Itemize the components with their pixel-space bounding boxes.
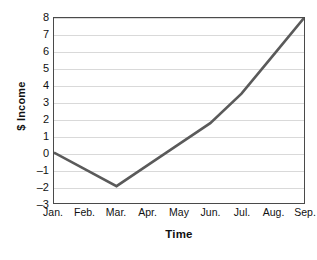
y-axis-tick-label: 3 xyxy=(43,96,49,108)
x-axis-tick-label: Apr. xyxy=(138,206,157,218)
x-axis-tick-labels: Jan.Feb.Mar.Apr.MayJun.Jul.Aug.Sep. xyxy=(53,206,305,224)
plot-area xyxy=(53,17,305,204)
y-axis-tick-label: 1 xyxy=(43,130,49,142)
x-axis-tick-label: Feb. xyxy=(74,206,95,218)
y-axis-tick-label: 8 xyxy=(43,11,49,23)
y-axis-tick-label: 2 xyxy=(43,113,49,125)
line-chart: $ Income 876543210–1–2–3 Jan.Feb.Mar.Apr… xyxy=(0,0,317,260)
series-line-income xyxy=(54,18,304,203)
x-axis-tick-label: May xyxy=(169,206,189,218)
y-axis-tick-label: –1 xyxy=(37,164,49,176)
y-axis-tick-label: 7 xyxy=(43,28,49,40)
y-axis-tick-label: –2 xyxy=(37,181,49,193)
y-axis-tick-label: 0 xyxy=(43,147,49,159)
x-axis-tick-label: Jan. xyxy=(43,206,63,218)
x-axis-tick-label: Jul. xyxy=(234,206,250,218)
x-axis-tick-label: Sep. xyxy=(294,206,316,218)
y-axis-tick-label: 4 xyxy=(43,79,49,91)
x-axis-title: Time xyxy=(53,228,305,240)
y-axis-title-label: $ Income xyxy=(15,81,27,130)
x-axis-tick-label: Mar. xyxy=(106,206,126,218)
x-axis-tick-label: Jun. xyxy=(201,206,221,218)
x-axis-tick-label: Aug. xyxy=(263,206,285,218)
y-axis-tick-label: 6 xyxy=(43,45,49,57)
y-axis-tick-labels: 876543210–1–2–3 xyxy=(28,17,52,204)
y-axis-tick-label: 5 xyxy=(43,62,49,74)
